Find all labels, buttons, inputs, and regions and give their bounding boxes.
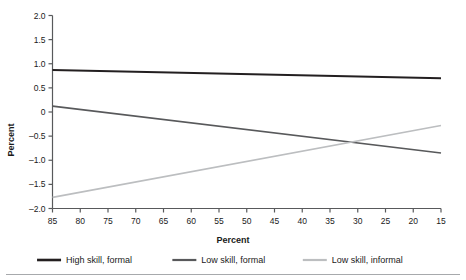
x-tick-label: 50 <box>242 216 252 226</box>
x-tick-label: 20 <box>409 216 419 226</box>
x-tick-label: 75 <box>103 216 113 226</box>
y-tick-label: –0.5 <box>29 131 46 141</box>
y-tick-label: –1.5 <box>29 179 46 189</box>
chart-legend: High skill, formalLow skill, formalLow s… <box>37 255 403 265</box>
x-tick-label: 85 <box>48 216 58 226</box>
legend-label-low-skill-informal: Low skill, informal <box>332 255 403 265</box>
x-tick-label: 60 <box>187 216 197 226</box>
y-tick-label: 0.5 <box>34 83 46 93</box>
y-tick-label: 1.0 <box>34 59 46 69</box>
series-line-high-skill-formal <box>53 70 442 78</box>
series-line-low-skill-informal <box>53 126 442 198</box>
x-tick-label: 45 <box>270 216 280 226</box>
y-axis-ticks: 2.01.51.00.50–0.5–1.0–1.5–2.0 <box>29 11 53 214</box>
x-tick-label: 40 <box>298 216 308 226</box>
series-lines <box>53 70 442 197</box>
x-tick-label: 30 <box>353 216 363 226</box>
x-tick-label: 35 <box>325 216 335 226</box>
y-tick-label: –1.0 <box>29 155 46 165</box>
y-tick-label: 0 <box>41 107 46 117</box>
x-tick-label: 15 <box>436 216 446 226</box>
x-tick-label: 65 <box>159 216 169 226</box>
legend-label-low-skill-formal: Low skill, formal <box>201 255 265 265</box>
chart-figure: 2.01.51.00.50–0.5–1.0–1.5–2.0 8580757065… <box>0 0 466 280</box>
y-tick-label: 2.0 <box>34 11 46 21</box>
x-axis-title: Percent <box>216 235 249 245</box>
series-line-low-skill-formal <box>53 106 442 153</box>
x-axis-ticks: 858075706560555045403530252015 <box>48 209 446 226</box>
x-tick-label: 25 <box>381 216 391 226</box>
legend-label-high-skill-formal: High skill, formal <box>66 255 132 265</box>
y-tick-label: –2.0 <box>29 204 46 214</box>
y-axis-title: Percent <box>6 123 16 156</box>
line-chart: 2.01.51.00.50–0.5–1.0–1.5–2.0 8580757065… <box>0 0 466 280</box>
axis-lines <box>53 16 442 209</box>
x-tick-label: 70 <box>131 216 141 226</box>
x-tick-label: 55 <box>214 216 224 226</box>
y-tick-label: 1.5 <box>34 35 46 45</box>
x-tick-label: 80 <box>76 216 86 226</box>
